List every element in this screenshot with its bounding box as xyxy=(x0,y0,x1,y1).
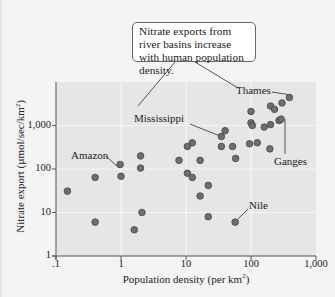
data-point xyxy=(279,100,286,107)
y-tick-label: 1 xyxy=(14,249,51,260)
y-tick-label: 1,000 xyxy=(14,119,51,130)
data-point xyxy=(197,193,204,200)
x-tick-label: 10 xyxy=(172,258,200,269)
label-mississippi: Mississippi xyxy=(134,112,184,124)
data-point xyxy=(218,143,225,150)
label-ganges: Ganges xyxy=(274,155,307,167)
data-point xyxy=(229,143,236,150)
callout-box: Nitrate exports from river basins increa… xyxy=(132,22,256,62)
data-point xyxy=(286,94,293,101)
data-point xyxy=(205,213,212,220)
x-tick-label: 1,000 xyxy=(302,258,330,269)
y-tick-label: 100 xyxy=(14,162,51,173)
label-amazon: Amazon xyxy=(71,149,108,161)
data-point xyxy=(249,122,256,129)
x-axis-label: Population density (per km2) xyxy=(56,272,316,285)
label-nile: Nile xyxy=(249,199,268,211)
y-tick-label: 10 xyxy=(14,206,51,217)
data-point xyxy=(131,227,138,234)
y-axis-label-end: ) xyxy=(14,100,26,104)
data-point xyxy=(92,219,99,226)
data-point xyxy=(205,182,212,189)
data-point xyxy=(254,140,261,147)
data-point xyxy=(248,108,255,115)
data-point xyxy=(271,106,278,113)
x-tick-label: 100 xyxy=(237,258,265,269)
x-axis-label-end: ) xyxy=(246,273,250,285)
label-thames: Thames xyxy=(236,84,271,96)
data-point xyxy=(137,153,144,160)
data-point xyxy=(184,143,191,150)
data-point xyxy=(92,174,99,181)
data-point xyxy=(261,124,268,131)
data-point xyxy=(117,161,124,168)
data-point xyxy=(232,219,239,226)
x-axis-label-text: Population density (per km xyxy=(123,273,242,285)
data-point xyxy=(246,140,253,147)
data-point xyxy=(267,121,274,128)
data-point xyxy=(189,174,196,181)
data-point xyxy=(139,209,146,216)
data-point xyxy=(222,127,229,134)
data-point xyxy=(218,133,225,140)
y-axis-label-sup: 2 xyxy=(14,104,22,108)
data-point xyxy=(176,157,183,164)
data-point xyxy=(278,116,285,123)
data-point xyxy=(137,165,144,172)
data-point xyxy=(267,146,274,153)
x-tick-label: 1 xyxy=(107,258,135,269)
data-point xyxy=(197,157,204,164)
data-point xyxy=(64,188,71,195)
data-point xyxy=(118,173,125,180)
data-point xyxy=(232,155,239,162)
